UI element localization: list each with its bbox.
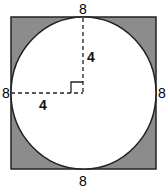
label-left: 8 [2,85,10,101]
label-top: 8 [79,1,87,17]
label-bottom: 8 [79,173,87,188]
label-horizontal-radius: 4 [39,97,47,113]
label-right: 8 [158,85,166,101]
label-vertical-radius: 4 [87,49,95,65]
diagram-canvas: 8 8 8 8 4 4 [0,0,168,188]
